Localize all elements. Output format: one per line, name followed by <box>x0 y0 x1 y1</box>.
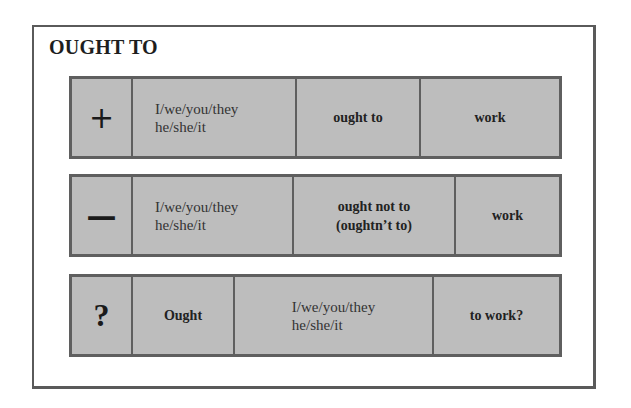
contracted-negative-form: (oughtn’t to) <box>336 216 412 235</box>
main-verb-cell: work <box>421 79 559 156</box>
negative-form-row: — I/we/you/they he/she/it ought not to (… <box>69 174 562 257</box>
modal-verb-cell: ought to <box>297 79 421 156</box>
full-negative-form: ought not to <box>336 197 412 216</box>
subject-pronouns-cell: I/we/you/they he/she/it <box>133 177 294 254</box>
subject-pronouns-cell: I/we/you/they he/she/it <box>133 79 297 156</box>
pronouns-singular-line: he/she/it <box>155 118 238 136</box>
pronouns-plural-line: I/we/you/they <box>292 298 375 316</box>
modal-negative-cell: ought not to (oughtn’t to) <box>294 177 456 254</box>
minus-icon: — <box>72 177 133 254</box>
main-verb-cell: work <box>456 177 559 254</box>
plus-icon: + <box>72 79 133 156</box>
positive-form-row: + I/we/you/they he/she/it ought to work <box>69 76 562 159</box>
pronouns-plural-line: I/we/you/they <box>155 198 238 216</box>
auxiliary-cell: Ought <box>133 277 235 354</box>
pronouns-singular-line: he/she/it <box>292 316 375 334</box>
question-form-row: ? Ought I/we/you/they he/she/it to work? <box>69 274 562 357</box>
main-verb-cell: to work? <box>434 277 559 354</box>
pronouns-singular-line: he/she/it <box>155 216 238 234</box>
pronouns-plural-line: I/we/you/they <box>155 100 238 118</box>
page-title: OUGHT TO <box>49 36 158 59</box>
subject-pronouns-cell: I/we/you/they he/she/it <box>235 277 434 354</box>
question-mark-icon: ? <box>72 277 133 354</box>
